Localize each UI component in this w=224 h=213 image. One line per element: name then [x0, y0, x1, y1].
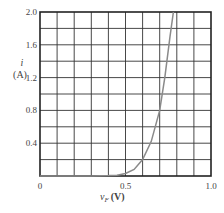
x-tick-label: 0.5 — [120, 181, 132, 191]
x-tick-label: 1.0 — [205, 181, 217, 191]
y-tick-label: 1.6 — [26, 40, 38, 50]
y-tick-label: 0.4 — [26, 138, 38, 148]
y-axis-unit: (A) — [13, 69, 27, 81]
y-tick-label: 1.2 — [26, 73, 37, 83]
x-tick-label: 0 — [38, 181, 43, 191]
x-axis-label: vF(V) — [100, 191, 125, 204]
y-tick-label: 2.0 — [26, 7, 38, 17]
x-axis-subscript: F — [103, 196, 109, 204]
y-tick-label: 0.8 — [26, 105, 38, 115]
grid-lines — [40, 12, 211, 176]
x-axis-unit: (V) — [111, 191, 125, 203]
x-tick-labels: 00.51.0 — [38, 181, 217, 191]
y-tick-labels: 0.40.81.21.62.0 — [26, 7, 38, 148]
diode-iv-chart: 0.40.81.21.62.0 00.51.0 i (A) vF(V) — [0, 0, 224, 213]
y-axis-symbol: i — [21, 57, 24, 68]
